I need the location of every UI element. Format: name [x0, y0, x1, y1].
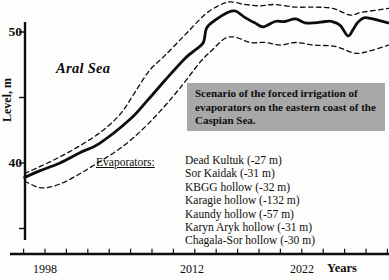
- region-label-aral-sea: Aral Sea: [56, 60, 110, 77]
- evaporators-heading: Evaporators:: [96, 156, 155, 168]
- y-tick-label-50: 50: [2, 24, 22, 40]
- x-tick-label-1998: 1998: [25, 262, 65, 277]
- y-axis-title: Level, m: [0, 72, 15, 128]
- evaporator-item: Dead Kultuk (-27 m): [185, 154, 315, 167]
- evaporator-item: Karagie hollow (-132 m): [185, 194, 315, 207]
- evaporators-list: Dead Kultuk (-27 m)Sor Kaidak (-31 m)KBG…: [185, 154, 315, 248]
- evaporator-item: Kaundy hollow (-57 m): [185, 208, 315, 221]
- scenario-annotation-box: Scenario of the forced irrigation of eva…: [187, 83, 385, 131]
- x-tick-label-2022: 2022: [282, 262, 322, 277]
- evaporator-item: Chagala-Sor hollow (-30 m): [185, 234, 315, 247]
- x-axis-title: Years: [320, 261, 364, 276]
- evaporator-item: Karyn Aryk hollow (-31 m): [185, 221, 315, 234]
- chart-figure: Level, m 50 40 Aral Sea Scenario of the …: [0, 0, 389, 280]
- y-tick-label-40: 40: [2, 155, 22, 171]
- evaporator-item: Sor Kaidak (-31 m): [185, 167, 315, 180]
- x-tick-label-2012: 2012: [172, 262, 212, 277]
- evaporator-item: KBGG hollow (-32 m): [185, 181, 315, 194]
- scenario-annotation-text: Scenario of the forced irrigation of eva…: [195, 87, 376, 126]
